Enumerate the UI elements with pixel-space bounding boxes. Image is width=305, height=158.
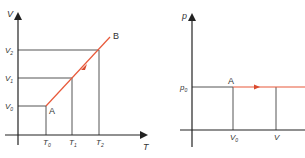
v2-tick-label: V2 bbox=[5, 46, 13, 56]
t2-tick-label: T2 bbox=[96, 138, 104, 148]
v1-tick-label: V1 bbox=[5, 74, 13, 84]
point-a-label: A bbox=[228, 76, 234, 86]
v0-tick-label: V0 bbox=[230, 133, 238, 143]
t0-tick-label: T0 bbox=[43, 138, 51, 148]
point-a-label: A bbox=[49, 106, 55, 116]
t1-tick-label: T1 bbox=[69, 138, 77, 148]
direction-arrow-icon bbox=[254, 85, 260, 90]
v0-tick-label: V0 bbox=[5, 102, 13, 112]
v-axis-label: V bbox=[7, 9, 14, 19]
p0-tick-label: p0 bbox=[179, 83, 187, 93]
process-line-ab bbox=[46, 37, 110, 106]
diagram-canvas: V T V2 V1 V0 T0 T1 T2 A B p p0 V0 V A bbox=[0, 0, 305, 158]
p-axis-label: p bbox=[181, 11, 187, 21]
t-axis-label: T bbox=[143, 142, 150, 152]
v-tick-label: V bbox=[274, 133, 280, 142]
point-b-label: B bbox=[113, 31, 119, 41]
pv-diagram: p p0 V0 V A bbox=[179, 11, 305, 147]
vt-diagram: V T V2 V1 V0 T0 T1 T2 A B bbox=[5, 9, 150, 152]
